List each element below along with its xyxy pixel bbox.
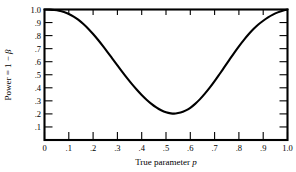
x-tick-label: .9 [260, 143, 266, 153]
power-curve-figure: .1.2.3.4.5.6.7.8.91.0 0.1.2.3.4.5.6.7.8.… [0, 0, 296, 172]
x-tick-label: .6 [187, 143, 193, 153]
y-tick-label: .7 [35, 44, 41, 54]
y-tick-label: .5 [35, 70, 41, 80]
x-tick-label: 1.0 [282, 143, 293, 153]
x-tick-label: .5 [163, 143, 169, 153]
y-tick-label: 1.0 [30, 5, 41, 15]
y-tick-label: .8 [35, 31, 41, 41]
y-tick-label: .1 [35, 122, 41, 132]
x-tick-label: 0 [42, 143, 46, 153]
y-tick-label: .3 [35, 96, 41, 106]
y-tick-label: .6 [35, 57, 41, 67]
chart-canvas: .1.2.3.4.5.6.7.8.91.0 0.1.2.3.4.5.6.7.8.… [0, 0, 296, 172]
x-axis-title: True parameter p [135, 157, 197, 167]
y-tick-label: .4 [35, 83, 42, 93]
y-tick-label: .2 [35, 109, 41, 119]
y-axis-title: Power = 1 − β [3, 49, 13, 101]
y-tick-label: .9 [35, 18, 41, 28]
x-tick-label: .2 [90, 143, 96, 153]
x-tick-label: .4 [139, 143, 146, 153]
x-tick-label: .8 [236, 143, 242, 153]
x-tick-label: .3 [114, 143, 120, 153]
x-tick-label: .7 [211, 143, 217, 153]
x-tick-label: .1 [66, 143, 72, 153]
